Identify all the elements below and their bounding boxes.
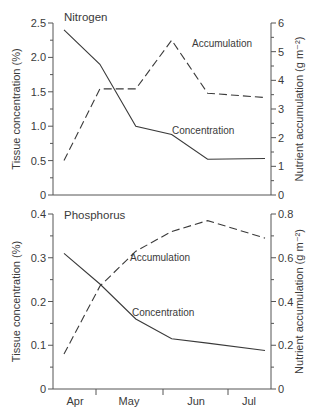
left-axis-title: Tissue concentration (%)	[10, 48, 22, 169]
left-tick-label: 2.5	[31, 17, 46, 29]
series-accumulation	[64, 221, 265, 354]
annotation-label: Accumulation	[130, 252, 190, 263]
left-tick-label: 0.2	[31, 296, 46, 308]
x-tick-label: Jul	[242, 395, 256, 407]
annotation-label: Accumulation	[192, 38, 252, 49]
x-tick-label: Apr	[66, 395, 83, 407]
left-tick-label: 1.5	[31, 86, 46, 98]
right-tick-label: 1	[278, 160, 284, 172]
left-tick-label: 1.0	[31, 120, 46, 132]
right-tick-label: 5	[278, 46, 284, 58]
series-concentration	[64, 253, 265, 350]
left-tick-label: 0.5	[31, 155, 46, 167]
panel-title: Nitrogen	[64, 11, 107, 23]
right-tick-label: 6	[278, 17, 284, 29]
left-tick-label: 0.4	[31, 208, 46, 220]
left-tick-label: 0.3	[31, 252, 46, 264]
right-tick-label: 0	[278, 189, 284, 201]
right-tick-label: 0.8	[278, 208, 293, 220]
panel-nitrogen: 00.51.01.52.02.50123456Tissue concentrat…	[10, 11, 305, 201]
panel-title: Phosphorus	[64, 209, 126, 221]
right-axis-title: Nutrient accumulation (g m⁻²)	[293, 229, 305, 374]
right-tick-label: 0	[278, 383, 284, 395]
nutrient-figure: 00.51.01.52.02.50123456Tissue concentrat…	[0, 0, 322, 419]
left-tick-label: 0	[40, 189, 46, 201]
left-axis-title: Tissue concentration (%)	[10, 241, 22, 362]
right-tick-label: 0.4	[278, 296, 293, 308]
series-concentration	[64, 30, 265, 159]
right-tick-label: 0.6	[278, 252, 293, 264]
panel-phosphorus: 00.10.20.30.400.20.40.60.8Tissue concent…	[10, 208, 305, 407]
left-tick-label: 0	[40, 383, 46, 395]
x-tick-label: Jun	[187, 395, 205, 407]
chart-canvas: 00.51.01.52.02.50123456Tissue concentrat…	[0, 0, 322, 419]
right-axis-title: Nutrient accumulation (g m⁻²)	[293, 37, 305, 182]
annotation-label: Concentration	[172, 125, 234, 136]
right-tick-label: 4	[278, 74, 284, 86]
right-tick-label: 3	[278, 103, 284, 115]
annotation-label: Concentration	[132, 307, 194, 318]
right-tick-label: 0.2	[278, 339, 293, 351]
x-tick-label: May	[119, 395, 140, 407]
right-tick-label: 2	[278, 132, 284, 144]
left-tick-label: 2.0	[31, 51, 46, 63]
left-tick-label: 0.1	[31, 339, 46, 351]
